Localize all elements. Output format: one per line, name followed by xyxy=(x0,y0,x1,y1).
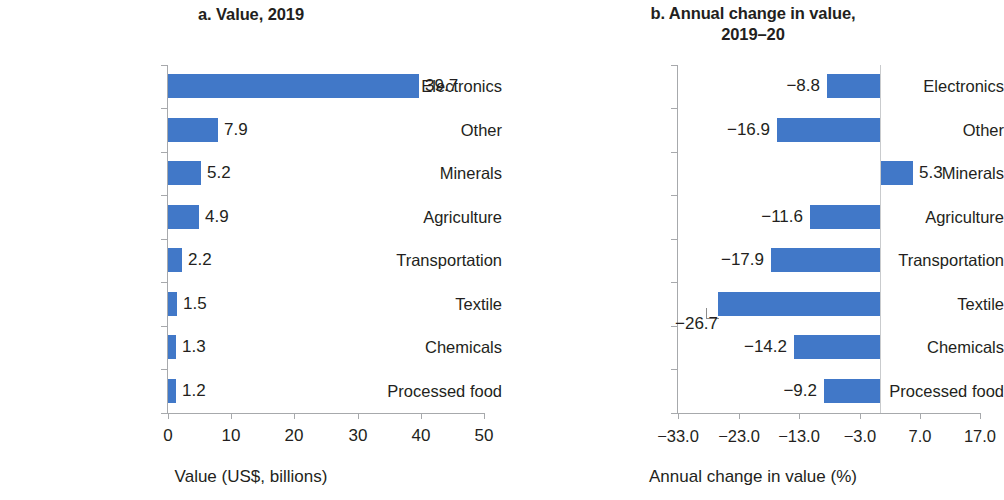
panel-a-x-tick-label: 20 xyxy=(285,426,304,446)
panel-b-bar xyxy=(810,205,880,229)
panel-a-bar xyxy=(168,379,176,403)
panel-a-category-label: Other xyxy=(348,120,502,140)
panel-a-x-tick xyxy=(168,413,169,419)
panel-a-bar xyxy=(168,205,199,229)
panel-b-x-tick xyxy=(678,413,679,419)
panel-a-bar xyxy=(168,161,201,185)
panel-b-x-tick xyxy=(739,413,740,419)
panel-b-y-tick xyxy=(671,239,677,240)
panel-a-y-tick xyxy=(161,413,167,414)
panel-b-title: b. Annual change in value, 2019–20 xyxy=(502,3,1004,45)
panel-b-bar-value: 5.3 xyxy=(919,163,943,183)
panel-b-x-tick-label: −33.0 xyxy=(657,426,699,446)
panel-b-bar xyxy=(824,379,880,403)
panel-b-x-tick-label: −23.0 xyxy=(718,426,760,446)
panel-a-category-label: Transportation xyxy=(348,250,502,270)
panel-a-bar xyxy=(168,248,182,272)
panel-a-bar-value: 4.9 xyxy=(205,207,229,227)
panel-b-bar xyxy=(827,74,880,98)
chart-panel-a: a. Value, 2019 Electronics Other Mineral… xyxy=(0,0,502,500)
panel-b-bar xyxy=(777,118,880,142)
panel-a-bar-value: 5.2 xyxy=(207,163,231,183)
panel-b-y-tick xyxy=(671,195,677,196)
panel-b-y-tick xyxy=(671,65,677,66)
panel-a-y-tick xyxy=(161,239,167,240)
panel-a-axis-title: Value (US$, billions) xyxy=(0,466,502,488)
panel-b-x-tick xyxy=(799,413,800,419)
panel-a-category-label: Agriculture xyxy=(348,207,502,227)
panel-b-plot-area: Electronics Other Minerals Agriculture T… xyxy=(502,60,1004,420)
panel-a-bar xyxy=(168,335,176,359)
panel-a-bar-value: 1.2 xyxy=(182,381,206,401)
panel-b-x-tick xyxy=(860,413,861,419)
panel-a-y-tick xyxy=(161,195,167,196)
panel-b-x-tick-label: −13.0 xyxy=(778,426,820,446)
panel-b-bar xyxy=(881,161,913,185)
panel-a-x-tick-label: 0 xyxy=(163,426,172,446)
panel-b-bar-value: −11.6 xyxy=(745,207,803,227)
panel-b-title-line1: b. Annual change in value, xyxy=(502,3,1004,24)
panel-a-x-tick-label: 30 xyxy=(349,426,368,446)
panel-b-axis-title: Annual change in value (%) xyxy=(502,466,1004,488)
panel-a-x-tick-label: 40 xyxy=(412,426,431,446)
panel-a-title: a. Value, 2019 xyxy=(0,4,502,25)
panel-b-bar-value: −9.2 xyxy=(767,381,817,401)
panel-b-y-tick xyxy=(671,152,677,153)
panel-a-y-tick xyxy=(161,152,167,153)
panel-a-category-label: Textile xyxy=(348,294,502,314)
panel-b-x-tick-label: 7.0 xyxy=(909,426,932,446)
panel-b-bar-value: −16.9 xyxy=(712,120,770,140)
panel-b-x-tick xyxy=(920,413,921,419)
panel-b-y-tick xyxy=(671,108,677,109)
panel-a-bar-value: 1.3 xyxy=(182,337,206,357)
panel-b-y-tick xyxy=(671,282,677,283)
panel-b-x-tick-label: −3.0 xyxy=(844,426,877,446)
panel-a-bar xyxy=(168,118,218,142)
panel-a-plot-area: Electronics Other Minerals Agriculture T… xyxy=(0,60,502,420)
panel-a-bar-value: 7.9 xyxy=(224,120,248,140)
panel-a-bar-value: 39.7 xyxy=(425,76,458,96)
figure-container: a. Value, 2019 Electronics Other Mineral… xyxy=(0,0,1004,500)
panel-a-y-tick xyxy=(161,369,167,370)
panel-a-x-tick xyxy=(358,413,359,419)
panel-a-y-tick xyxy=(161,326,167,327)
panel-b-bar xyxy=(794,335,880,359)
panel-b-y-axis xyxy=(677,65,678,413)
panel-b-x-axis xyxy=(677,413,981,414)
panel-a-bar-value: 1.5 xyxy=(183,294,207,314)
panel-b-bar xyxy=(771,248,880,272)
panel-b-y-tick xyxy=(671,369,677,370)
panel-a-bar xyxy=(168,292,177,316)
panel-a-x-tick-label: 50 xyxy=(475,426,494,446)
panel-a-y-tick xyxy=(161,108,167,109)
panel-b-x-tick xyxy=(980,413,981,419)
panel-a-x-tick xyxy=(421,413,422,419)
panel-b-bar-value: −14.2 xyxy=(729,337,787,357)
panel-a-x-tick xyxy=(294,413,295,419)
panel-a-category-label: Chemicals xyxy=(348,337,502,357)
panel-a-x-tick xyxy=(484,413,485,419)
panel-a-bar xyxy=(168,74,419,98)
panel-a-category-label: Processed food xyxy=(348,381,502,401)
panel-a-x-axis xyxy=(167,413,484,414)
panel-b-bar xyxy=(718,292,880,316)
panel-b-bar-value: −17.9 xyxy=(706,250,764,270)
panel-a-category-label: Minerals xyxy=(348,163,502,183)
panel-b-bar-value: −8.8 xyxy=(770,76,820,96)
panel-a-bar-value: 2.2 xyxy=(188,250,212,270)
panel-b-x-tick-label: 17.0 xyxy=(964,426,996,446)
panel-b-bar-value: −26.7 xyxy=(675,314,718,334)
panel-b-zero-line xyxy=(880,65,881,413)
panel-b-y-tick xyxy=(671,413,677,414)
panel-a-y-tick xyxy=(161,282,167,283)
chart-panel-b: b. Annual change in value, 2019–20 Elect… xyxy=(502,0,1004,500)
panel-a-y-tick xyxy=(161,65,167,66)
panel-a-x-tick-label: 10 xyxy=(222,426,241,446)
panel-b-title-line2: 2019–20 xyxy=(502,24,1004,45)
panel-a-x-tick xyxy=(231,413,232,419)
